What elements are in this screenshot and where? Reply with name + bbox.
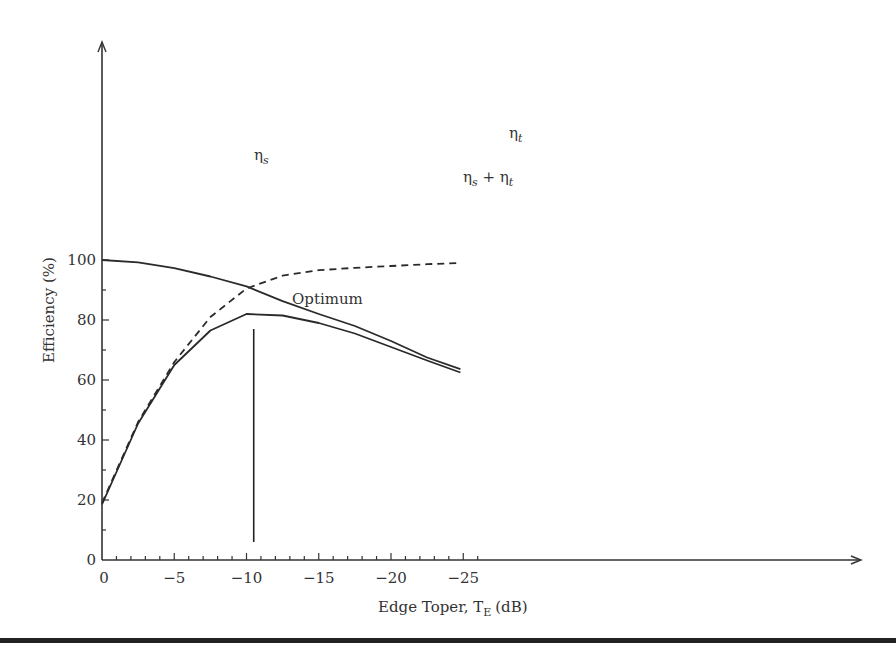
x-tick-label: −15 — [303, 569, 335, 587]
x-tick-label: −10 — [231, 569, 263, 587]
eta-symbol: η — [254, 146, 263, 164]
optimum-label: Optimum — [292, 290, 363, 308]
x-tick-label: −20 — [375, 569, 407, 587]
y-tick-label: 100 — [67, 251, 96, 269]
series-eta-s-line — [102, 263, 460, 503]
x-axis-title-unit: (dB) — [495, 598, 527, 616]
x-axis-title-sub: E — [483, 606, 491, 619]
subscript: t — [518, 132, 523, 145]
eta-symbol: η — [509, 124, 518, 142]
x-axis-title-main: Edge Toper, T — [378, 598, 483, 616]
plus-eta: + η — [478, 168, 509, 186]
y-tick-label: 20 — [77, 491, 96, 509]
y-tick-label: 60 — [77, 371, 96, 389]
subscript: t — [509, 176, 514, 189]
y-tick-label: 0 — [86, 551, 96, 569]
y-tick-label: 40 — [77, 431, 96, 449]
series-label-eta-t: ηt — [509, 124, 523, 145]
bottom-rule — [0, 638, 896, 643]
x-tick-label: −5 — [163, 569, 185, 587]
efficiency-chart: 020406080100 0−5−10−15−20−25 Optimum ηt … — [0, 0, 896, 658]
x-tick-label: −25 — [447, 569, 479, 587]
series-eta-sum-line — [102, 314, 460, 505]
x-axis: 0−5−10−15−20−25 — [99, 553, 861, 587]
x-tick-label: 0 — [99, 569, 109, 587]
subscript: s — [263, 154, 269, 167]
y-axis-title: Efficiency (%) — [40, 257, 58, 363]
y-tick-label: 80 — [77, 311, 96, 329]
eta-symbol: η — [463, 168, 472, 186]
series-layer — [102, 260, 460, 505]
y-axis: 020406080100 — [67, 42, 109, 569]
series-label-eta-s: ηs — [254, 146, 269, 167]
x-axis-title: Edge Toper, TE(dB) — [378, 598, 528, 619]
series-label-eta-sum: ηs + ηt — [463, 168, 514, 189]
